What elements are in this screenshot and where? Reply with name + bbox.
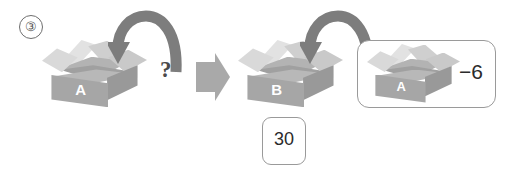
carton-a-right-label: A <box>387 79 415 94</box>
problem-number: ③ <box>19 15 43 39</box>
delta-value: −6 <box>450 60 492 84</box>
carton-a-right: A <box>367 44 460 105</box>
drop-arrow-left-icon <box>108 10 192 80</box>
unknown-question-mark: ? <box>160 57 172 83</box>
carton-b-label: B <box>261 81 293 98</box>
carton-a-left-label: A <box>65 81 97 98</box>
flow-arrow-right-icon <box>196 53 230 101</box>
diagram-canvas: ③ A ? B <box>0 0 517 178</box>
quantity-card-value: 30 <box>262 129 306 150</box>
